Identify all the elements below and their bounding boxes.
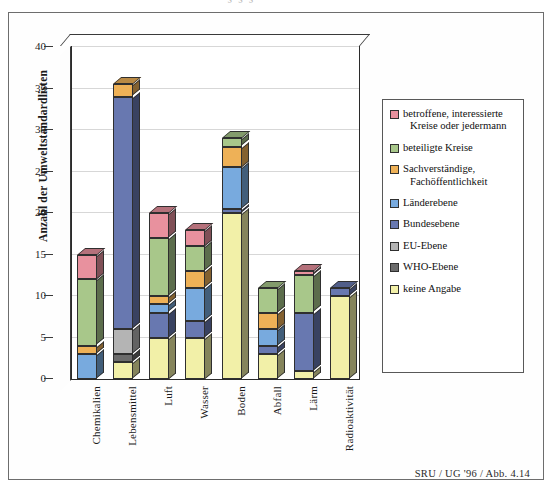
bar-segment bbox=[294, 371, 314, 379]
bar-segment bbox=[185, 288, 205, 321]
legend-item[interactable]: Länderebene bbox=[390, 197, 517, 209]
bar-segment-side bbox=[205, 283, 212, 320]
legend-label: EU-Ebene bbox=[403, 240, 447, 252]
legend-swatch-icon bbox=[390, 263, 399, 272]
y-tick-mark bbox=[44, 46, 53, 47]
legend-label: WHO-Ebene bbox=[403, 261, 458, 273]
legend-item[interactable]: Sachverständige,Fachöffentlichkeit bbox=[390, 163, 517, 188]
plot-canvas bbox=[71, 46, 360, 380]
bar-radioaktivit-t[interactable] bbox=[330, 288, 350, 379]
legend-swatch-icon bbox=[390, 285, 399, 294]
x-tick-label: Abfall bbox=[271, 386, 283, 415]
legend-swatch-icon bbox=[390, 110, 399, 119]
legend-item[interactable]: EU-Ebene bbox=[390, 240, 517, 252]
bar-segment bbox=[222, 138, 242, 146]
bar-segment-side bbox=[133, 358, 140, 378]
bar-segment bbox=[185, 321, 205, 338]
bar-segment-side bbox=[278, 349, 285, 378]
figure-source-note: SRU / UG '96 / Abb. 4.14 bbox=[415, 468, 530, 479]
bar-segment-side bbox=[314, 270, 321, 311]
bar-segment bbox=[330, 296, 350, 379]
bar-segment bbox=[113, 329, 133, 354]
bar-segment-side bbox=[97, 275, 104, 345]
bar-boden[interactable] bbox=[222, 138, 242, 379]
x-axis-labels: ChemikalienLebensmittelLuftWasserBodenAb… bbox=[60, 386, 360, 486]
bar-segment-side bbox=[97, 349, 104, 378]
legend-label: Sachverständige,Fachöffentlichkeit bbox=[403, 163, 487, 188]
legend-item[interactable]: beteiligte Kreise bbox=[390, 142, 517, 154]
legend-swatch-icon bbox=[390, 220, 399, 229]
bar-segment bbox=[149, 296, 169, 304]
x-tick-label: Wasser bbox=[198, 386, 210, 419]
y-tick-mark bbox=[44, 254, 53, 255]
bar-segment-side bbox=[133, 92, 140, 328]
legend-item[interactable]: WHO-Ebene bbox=[390, 261, 517, 273]
legend-label: keine Angabe bbox=[403, 283, 461, 295]
bar-segment-side bbox=[205, 333, 212, 378]
bar-segment bbox=[149, 313, 169, 338]
bar-segment bbox=[185, 338, 205, 380]
legend-swatch-icon bbox=[390, 165, 399, 174]
plot-top-face bbox=[60, 34, 370, 46]
bar-luft[interactable] bbox=[149, 213, 169, 379]
legend: betroffene, interessierteKreise oder jed… bbox=[382, 99, 524, 373]
bar-segment bbox=[149, 338, 169, 380]
bar-segment bbox=[77, 354, 97, 379]
x-tick-label: Boden bbox=[235, 386, 247, 416]
bar-segment bbox=[330, 288, 350, 296]
bar-segment bbox=[185, 271, 205, 288]
bar-segment bbox=[185, 230, 205, 247]
bar-lebensmittel[interactable] bbox=[113, 84, 133, 379]
bar-segment bbox=[77, 255, 97, 280]
bar-segment bbox=[113, 362, 133, 379]
legend-item[interactable]: betroffene, interessierteKreise oder jed… bbox=[390, 108, 517, 133]
bar-segment bbox=[222, 147, 242, 168]
bar-segment bbox=[258, 313, 278, 330]
x-tick-label: Lebensmittel bbox=[126, 386, 138, 446]
bar-segment bbox=[113, 84, 133, 96]
bar-segment bbox=[149, 304, 169, 312]
bar-segment bbox=[258, 288, 278, 313]
bar-segment bbox=[294, 313, 314, 371]
bar-segment bbox=[77, 279, 97, 345]
y-tick-mark bbox=[44, 337, 53, 338]
legend-label-line2: Kreise oder jedermann bbox=[403, 120, 506, 132]
bar-segment bbox=[113, 97, 133, 329]
y-tick-mark bbox=[44, 295, 53, 296]
bar-abfall[interactable] bbox=[258, 288, 278, 379]
bar-segment-side bbox=[169, 333, 176, 378]
bar-segment bbox=[149, 213, 169, 238]
legend-label: betroffene, interessierteKreise oder jed… bbox=[403, 108, 506, 133]
bar-chemikalien[interactable] bbox=[77, 255, 97, 380]
bar-segment bbox=[113, 354, 133, 362]
legend-swatch-icon bbox=[390, 242, 399, 251]
bar-segment bbox=[222, 209, 242, 213]
gridline bbox=[72, 46, 359, 47]
bar-segment bbox=[258, 346, 278, 354]
plot-area-3d bbox=[60, 34, 360, 382]
legend-item[interactable]: Bundesebene bbox=[390, 218, 517, 230]
x-tick-label: Chemikalien bbox=[90, 386, 102, 444]
bar-l-rm[interactable] bbox=[294, 271, 314, 379]
bar-segment bbox=[258, 354, 278, 379]
legend-swatch-icon bbox=[390, 144, 399, 153]
bar-segment-side bbox=[169, 233, 176, 295]
legend-item[interactable]: keine Angabe bbox=[390, 283, 517, 295]
x-tick-label: Lärm bbox=[307, 386, 319, 411]
legend-label: Länderebene bbox=[403, 197, 458, 209]
legend-label: beteiligte Kreise bbox=[403, 142, 473, 154]
cropped-title-strip: ’’ § § § bbox=[0, 0, 552, 11]
bar-segment bbox=[222, 213, 242, 379]
cropped-title-ghost-text: ’’ § § § bbox=[215, 0, 255, 3]
bar-wasser[interactable] bbox=[185, 230, 205, 379]
plot-side-face bbox=[60, 46, 71, 390]
x-tick-label: Luft bbox=[162, 386, 174, 406]
bar-segment bbox=[149, 238, 169, 296]
x-tick-label: Radioaktivität bbox=[343, 386, 355, 451]
y-tick-mark bbox=[44, 378, 53, 379]
legend-swatch-icon bbox=[390, 199, 399, 208]
y-axis-title: Anzahl der Umweltstandardlisten bbox=[37, 61, 49, 251]
bar-segment bbox=[185, 246, 205, 271]
bar-segment bbox=[294, 275, 314, 312]
bar-segment-side bbox=[350, 291, 357, 378]
